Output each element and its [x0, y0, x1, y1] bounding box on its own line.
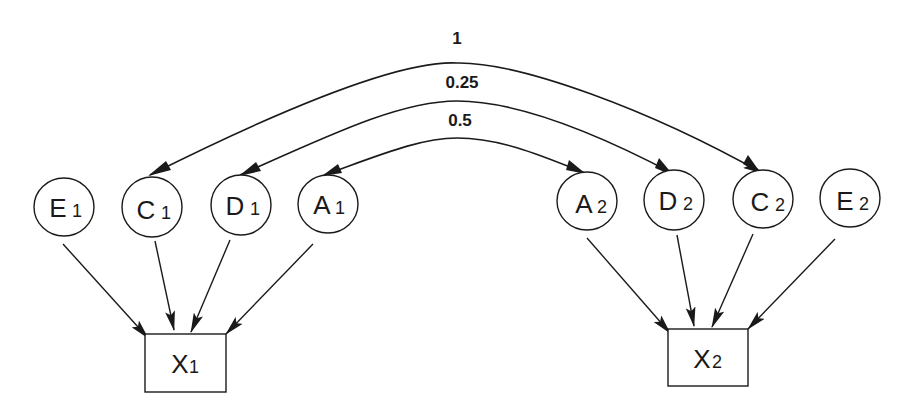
svg-text:E: E [49, 193, 66, 223]
svg-text:1: 1 [335, 198, 345, 218]
svg-text:A: A [313, 190, 331, 220]
svg-text:2: 2 [597, 197, 607, 217]
node-a2: A 2 [557, 172, 617, 230]
correlation-label-a: 0.5 [448, 111, 472, 130]
paths-to-x1 [63, 240, 313, 338]
correlation-arc-a [324, 138, 585, 175]
svg-text:X: X [693, 344, 710, 374]
correlation-label-d: 0.25 [445, 73, 478, 92]
path-diagram: 1 0.25 0.5 E 1 C 1 D 1 A 1 A 2 D 2 C 2 E [0, 0, 917, 409]
node-a1: A 1 [298, 175, 358, 233]
svg-text:1: 1 [72, 201, 82, 221]
node-x2: X 2 [668, 329, 748, 386]
svg-text:A: A [575, 189, 593, 219]
svg-text:E: E [836, 186, 853, 216]
svg-text:2: 2 [683, 194, 693, 214]
svg-text:2: 2 [712, 352, 722, 372]
node-e1: E 1 [34, 178, 94, 236]
node-e2: E 2 [820, 169, 880, 227]
node-c2: C 2 [733, 170, 793, 228]
correlation-label-c: 1 [452, 29, 461, 48]
svg-text:2: 2 [859, 194, 869, 214]
paths-to-x2 [587, 234, 835, 333]
svg-text:X: X [171, 349, 188, 379]
svg-text:C: C [751, 187, 770, 217]
node-d1: D 1 [211, 175, 271, 235]
svg-text:1: 1 [250, 199, 260, 219]
svg-text:D: D [659, 186, 678, 216]
svg-text:C: C [137, 195, 156, 225]
svg-text:1: 1 [161, 203, 171, 223]
svg-text:D: D [226, 191, 245, 221]
svg-text:2: 2 [775, 195, 785, 215]
node-d2: D 2 [644, 170, 704, 230]
node-c1: C 1 [122, 177, 182, 237]
svg-text:1: 1 [189, 357, 199, 377]
node-x1: X 1 [145, 334, 226, 392]
